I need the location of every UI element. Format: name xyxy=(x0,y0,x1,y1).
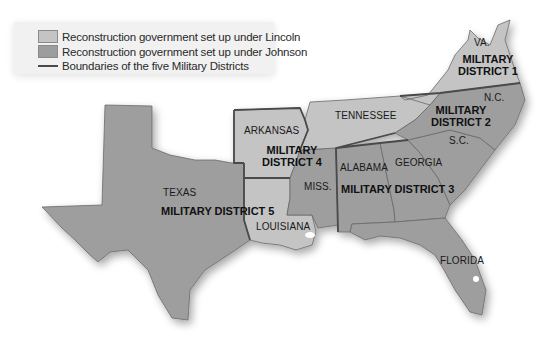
label-texas: TEXAS xyxy=(163,187,196,198)
lincoln-swatch xyxy=(38,30,58,43)
label-military-district-4: MILITARY DISTRICT 4 xyxy=(262,144,322,168)
legend-label-lincoln: Reconstruction government set up under L… xyxy=(62,31,300,43)
label-virginia: VA. xyxy=(474,37,490,48)
district-2-line1: MILITARY xyxy=(431,104,491,116)
label-florida: FLORIDA xyxy=(440,255,484,266)
legend-item-lincoln: Reconstruction government set up under L… xyxy=(38,30,300,43)
label-arkansas: ARKANSAS xyxy=(244,125,299,136)
label-alabama: ALABAMA xyxy=(340,162,388,173)
label-georgia: GEORGIA xyxy=(395,157,442,168)
lake-okeechobee xyxy=(473,276,479,282)
label-military-district-2: MILITARY DISTRICT 2 xyxy=(431,104,491,128)
lake-pontchartrain xyxy=(305,232,315,238)
label-mississippi: MISS. xyxy=(304,181,332,192)
district-1-line2: DISTRICT 1 xyxy=(458,65,518,77)
legend-label-johnson: Reconstruction government set up under J… xyxy=(62,46,307,58)
label-military-district-3: MILITARY DISTRICT 3 xyxy=(341,183,454,195)
map-legend: Reconstruction government set up under L… xyxy=(14,22,274,74)
district-4-line2: DISTRICT 4 xyxy=(262,156,322,168)
district-2-line2: DISTRICT 2 xyxy=(431,116,491,128)
legend-item-boundaries: Boundaries of the five Military District… xyxy=(38,60,249,72)
district-4-line1: MILITARY xyxy=(262,144,322,156)
legend-label-boundaries: Boundaries of the five Military District… xyxy=(62,60,249,72)
label-military-district-1: MILITARY DISTRICT 1 xyxy=(458,53,518,77)
label-military-district-5: MILITARY DISTRICT 5 xyxy=(161,205,274,217)
label-louisiana: LOUISIANA xyxy=(256,221,310,232)
label-south-carolina: S.C. xyxy=(449,135,469,146)
state-florida xyxy=(350,218,486,315)
label-north-carolina: N.C. xyxy=(484,92,504,103)
district-1-line1: MILITARY xyxy=(458,53,518,65)
legend-item-johnson: Reconstruction government set up under J… xyxy=(38,45,307,58)
johnson-swatch xyxy=(38,45,58,58)
boundary-line-swatch xyxy=(38,65,58,67)
label-tennessee: TENNESSEE xyxy=(335,110,396,121)
